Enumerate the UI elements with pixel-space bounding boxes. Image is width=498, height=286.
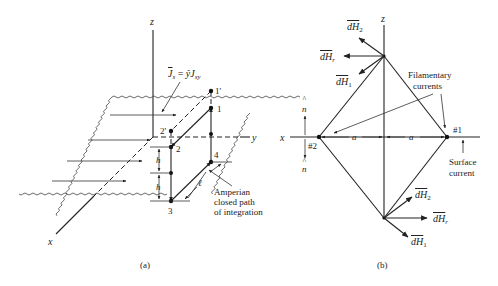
point-1-label: 1 — [217, 104, 222, 114]
path-segment-3-4 — [171, 162, 211, 201]
dH1-top-label: dH1 — [336, 76, 352, 89]
surface-current-label-line2: current — [449, 168, 475, 178]
path-segment-1-2 — [171, 108, 211, 147]
point-1-prime-label: 1' — [215, 86, 222, 96]
z-axis-b-label: z — [380, 13, 385, 24]
amperian-label-line3: of integration — [214, 207, 263, 217]
length-arrow — [185, 187, 197, 199]
filament-1 — [445, 135, 449, 139]
point-mid-right — [209, 132, 213, 136]
dH2-bottom-label: dH2 — [415, 189, 431, 202]
point-2-prime — [169, 129, 173, 133]
y-axis-label: y — [251, 132, 257, 143]
x-axis-label: x — [47, 236, 53, 247]
normal-down-hat: ^ — [303, 157, 307, 166]
dH2-top-label: dH2 — [347, 21, 363, 34]
h-lower-label: h — [156, 182, 161, 192]
dHr-bottom-label: dHr — [433, 213, 448, 226]
path-top-dashed — [171, 91, 211, 131]
normal-up-label: n — [302, 104, 307, 114]
figure-canvas: z y x Js = ŷJsy — [0, 0, 498, 286]
panel-a: z y x Js = ŷJsy — [19, 16, 300, 270]
point-1 — [209, 106, 213, 110]
amperian-label-line1: Amperian — [214, 187, 250, 197]
current-density-label: Js = ŷJsy — [168, 68, 201, 81]
current-sheet-outline — [112, 96, 300, 98]
point-2-prime-label: 2' — [160, 126, 167, 136]
filamentary-label-line2: currents — [413, 81, 442, 91]
point-2-label: 2 — [176, 144, 181, 154]
filament-1-label: #1 — [453, 125, 462, 135]
x-axis-b-label: x — [279, 132, 285, 143]
current-sheet-bottom-edge — [19, 193, 167, 195]
radius-1-top — [384, 56, 447, 137]
filament-2-label: #2 — [308, 141, 317, 151]
amperian-pointer — [209, 170, 232, 186]
filamentary-label-line1: Filamentary — [408, 70, 452, 80]
point-3-label: 3 — [168, 206, 173, 216]
z-axis-label: z — [149, 16, 154, 27]
panel-b: z x dH2 dHr dH1 dH2 dHr dH1 Filamentary … — [279, 13, 480, 270]
panel-b-caption: (b) — [377, 260, 388, 270]
x-axis-hidden — [94, 137, 153, 196]
x-axis — [56, 196, 94, 234]
h-upper-label: h — [156, 155, 161, 165]
dH2-top-vector — [359, 38, 384, 56]
surface-current-label-line1: Surface — [449, 157, 476, 167]
point-4-label: 4 — [214, 150, 219, 160]
dHr-top-label: dHr — [320, 51, 335, 64]
dH1-bottom-label: dH1 — [411, 236, 427, 249]
panel-a-caption: (a) — [140, 260, 150, 270]
filament-2 — [317, 135, 321, 139]
length-label: ℓ — [198, 178, 202, 188]
spacing-a-left: a — [352, 132, 357, 142]
filament-pointer-1 — [441, 94, 445, 128]
radius-1-bottom — [384, 137, 447, 218]
current-density-pointer — [162, 82, 180, 112]
spacing-a-right: a — [409, 132, 414, 142]
amperian-label-line2: closed path — [214, 197, 255, 207]
current-sheet-left-edge — [56, 97, 112, 216]
dH1-bottom-vector — [384, 218, 408, 237]
point-1-prime — [209, 89, 213, 93]
radius-2-top — [319, 56, 384, 137]
normal-up-hat: ^ — [303, 95, 307, 104]
length-arrow — [210, 164, 221, 172]
radius-2-bottom — [319, 137, 384, 218]
